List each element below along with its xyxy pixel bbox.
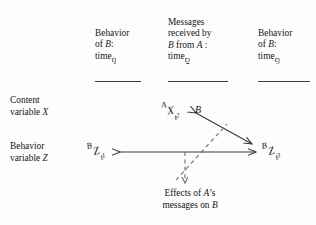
arrow-diagonal-content-behavior — [196, 113, 252, 144]
node-label-x-t2-trailing-b: B — [195, 99, 201, 117]
node-label-x-t2-subsub: 2 — [175, 111, 179, 118]
caption-line2: messages on B — [140, 200, 240, 212]
caption-line1: Effects of A’s — [140, 188, 240, 200]
caption-line1-suffix: ’s — [209, 188, 215, 198]
node-label-x-t2-presuperscript: A — [160, 99, 167, 110]
node-label-x-t2-trailing-text: B — [195, 104, 201, 115]
caption-line2-italic: B — [212, 200, 218, 210]
caption-line2-prefix: messages on — [162, 200, 211, 210]
caption-effects: Effects of A’s messages on B — [140, 188, 240, 211]
figure-canvas: Behavior of B: timet1 Messages received … — [0, 0, 316, 225]
node-label-z-t1-presuperscript: B — [85, 140, 93, 151]
caption-line1-prefix: Effects of — [165, 188, 204, 198]
node-label-z-t3-presuperscript: B — [260, 140, 268, 151]
node-label-x-t2: AXt2 — [160, 98, 181, 121]
